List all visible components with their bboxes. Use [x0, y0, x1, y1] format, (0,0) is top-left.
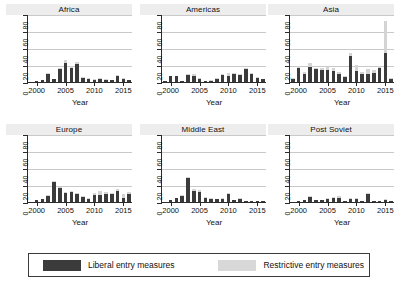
bar-segment-liberal — [58, 69, 62, 82]
bar-segment-liberal — [238, 199, 242, 202]
bar-segment-liberal — [366, 194, 370, 202]
bar-group — [326, 67, 330, 82]
plot-area — [28, 15, 132, 83]
bar-segment-liberal — [250, 201, 254, 202]
bar-segment-liberal — [209, 199, 213, 202]
bar-group — [227, 73, 231, 82]
bar-group — [378, 66, 382, 82]
bar-segment-liberal — [360, 74, 364, 83]
bar-group — [209, 80, 213, 82]
bar-group — [41, 80, 45, 82]
bar-group — [215, 78, 219, 82]
bar-segment-liberal — [389, 201, 393, 202]
bar-group — [314, 200, 318, 202]
bar-group — [127, 80, 131, 82]
bar-segment-liberal — [198, 192, 202, 202]
bar-group — [332, 197, 336, 202]
y-axis: 020406080 — [140, 15, 162, 83]
bar-segment-liberal — [360, 201, 364, 202]
panel-title: Americas — [140, 4, 266, 15]
bar-group — [378, 201, 382, 202]
x-axis-tick-label: 2010 — [348, 86, 365, 95]
bar-segment-liberal — [75, 64, 79, 82]
bar-group — [343, 76, 347, 82]
y-axis: 020406080 — [268, 15, 290, 83]
bar-segment-liberal — [169, 76, 173, 82]
bar-segment-liberal — [46, 74, 50, 83]
bar-group — [261, 79, 265, 82]
bar-segment-liberal — [87, 79, 91, 82]
bar-group — [349, 198, 353, 202]
bar-segment-liberal — [378, 201, 382, 202]
bar-group — [104, 192, 108, 202]
bar-group — [122, 194, 126, 202]
bar-segment-liberal — [35, 200, 39, 202]
bar-group — [98, 191, 102, 202]
bar-segment-liberal — [93, 80, 97, 82]
x-axis-tick-label: 2015 — [249, 206, 266, 215]
bar-segment-liberal — [163, 81, 167, 82]
bar-segment-liberal — [122, 79, 126, 82]
plot-area — [290, 135, 394, 203]
x-axis-title: Year — [290, 98, 394, 107]
bar-segment-liberal — [221, 75, 225, 82]
bar-segment-liberal — [303, 74, 307, 83]
bar-group — [384, 199, 388, 202]
bar-segment-liberal — [320, 200, 324, 202]
bar-segment-liberal — [186, 75, 190, 82]
bar-segment-liberal — [378, 68, 382, 82]
bar-segment-liberal — [221, 199, 225, 202]
bar-group — [360, 201, 364, 202]
bar-segment-liberal — [70, 192, 74, 202]
bar-group — [93, 193, 97, 202]
y-axis: 020406080 — [6, 15, 28, 83]
bar-segment-liberal — [70, 68, 74, 82]
bar-group — [297, 66, 301, 82]
chart-legend: Liberal entry measures Restrictive entry… — [28, 253, 370, 277]
x-axis-tick-label: 2005 — [57, 86, 74, 95]
bar-segment-liberal — [256, 201, 260, 202]
bar-group — [308, 196, 312, 202]
bar-segment-liberal — [87, 199, 91, 202]
legend-item-restrictive: Restrictive entry measures — [218, 260, 364, 271]
bar-segment-liberal — [332, 198, 336, 202]
x-axis-tick-label: 2000 — [28, 206, 45, 215]
bar-group — [122, 78, 126, 82]
bar-group — [175, 76, 179, 82]
bar-group — [384, 21, 388, 82]
bar-segment-liberal — [110, 80, 114, 82]
bar-segment-liberal — [81, 78, 85, 82]
bar-group — [343, 201, 347, 202]
bar-group — [186, 74, 190, 82]
bar-segment-liberal — [244, 69, 248, 82]
bar-group — [64, 60, 68, 82]
bar-segment-restrictive — [384, 21, 388, 53]
bar-group — [70, 66, 74, 82]
bar-segment-liberal — [204, 198, 208, 202]
bar-group — [355, 65, 359, 82]
chart-figure: Africa0204060802000200520102015YearAmeri… — [0, 0, 396, 282]
bar-group — [198, 190, 202, 202]
panel-title: Middle East — [140, 124, 266, 135]
bar-series — [290, 15, 394, 82]
bar-group — [175, 198, 179, 202]
bar-group — [204, 197, 208, 202]
bar-group — [250, 201, 254, 202]
bar-group — [52, 79, 56, 82]
bar-group — [70, 191, 74, 202]
x-axis-tick-label: 2010 — [86, 86, 103, 95]
bar-segment-liberal — [250, 74, 254, 82]
bar-group — [303, 72, 307, 82]
x-axis-tick-label: 2000 — [162, 86, 179, 95]
bar-segment-liberal — [227, 194, 231, 202]
bar-group — [326, 198, 330, 202]
y-axis: 020406080 — [268, 135, 290, 203]
chart-panel-asia: Asia0204060802000200520102015Year — [268, 4, 394, 110]
bar-group — [372, 70, 376, 82]
bar-group — [75, 62, 79, 82]
bar-series — [162, 15, 266, 82]
x-axis-tick-label: 2015 — [377, 86, 394, 95]
bar-series — [28, 135, 132, 202]
bar-group — [41, 199, 45, 202]
plot-area — [162, 15, 266, 83]
